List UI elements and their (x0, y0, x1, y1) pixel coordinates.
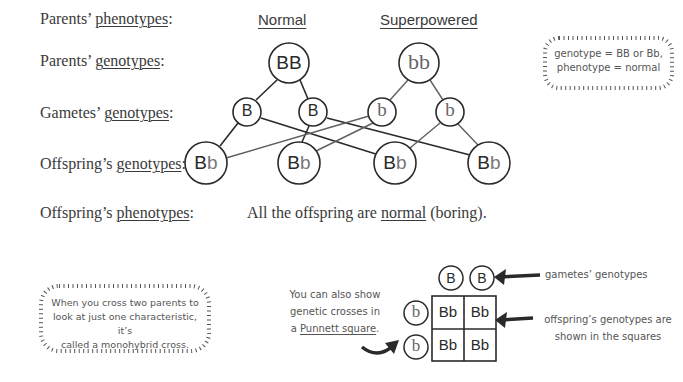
gamete-B-1: B (233, 101, 261, 121)
punnett-cell-1-1: Bb (432, 303, 464, 321)
punnett-top-gamete-1: B (441, 269, 461, 287)
genotype-tip-note: genotype = BB or Bb, phenotype = normal (552, 47, 665, 75)
parent-genotype-bb-dominant: BB (269, 51, 309, 75)
punnett-cell-1-2: Bb (464, 303, 496, 321)
recessive-allele: b (490, 152, 501, 173)
tip-line-1: genotype = BB or Bb, (552, 47, 665, 61)
result-suffix: (boring). (426, 204, 486, 221)
punnett-cell-2-1: Bb (432, 336, 464, 354)
gamete-B-2: B (299, 101, 327, 121)
offspring-genotype-1: Bb (185, 151, 227, 175)
punnett-intro-line-1: You can also show (280, 286, 390, 303)
dominant-allele: B (383, 152, 396, 173)
intro-suffix: . (376, 323, 379, 334)
dominant-allele: B (194, 152, 207, 173)
intro-term: Punnett square (300, 323, 376, 334)
offspring-genotype-3: Bb (374, 151, 416, 175)
monohybrid-note: When you cross two parents to look at ju… (45, 296, 205, 352)
punnett-intro-line-2: genetic crosses in (280, 303, 390, 320)
recessive-allele: b (207, 152, 218, 173)
intro-prefix: a (291, 323, 300, 334)
monohybrid-line-3: called a monohybrid cross. (45, 338, 205, 352)
punnett-intro-note: You can also show genetic crosses in a P… (280, 286, 390, 337)
parent-genotype-bb-recessive: bb (399, 50, 439, 74)
monohybrid-line-2: look at just one characteristic, it’s (45, 310, 205, 338)
punnett-cell-2-2: Bb (464, 336, 496, 354)
result-term: normal (381, 204, 426, 221)
gamete-b-1: b (368, 100, 396, 120)
punnett-side-gamete-2: b (406, 337, 426, 355)
annotation-line-2: shown in the squares (533, 328, 683, 345)
recessive-allele: b (300, 152, 311, 173)
gamete-b-2: b (436, 100, 464, 120)
offspring-genotype-2: Bb (278, 151, 320, 175)
dominant-allele: B (287, 152, 300, 173)
recessive-allele: b (396, 152, 407, 173)
tip-line-2: phenotype = normal (552, 61, 665, 75)
punnett-top-gamete-2: B (472, 269, 492, 287)
result-prefix: All the offspring are (247, 204, 381, 221)
punnett-intro-line-3: a Punnett square. (280, 320, 390, 337)
dominant-allele: B (477, 152, 490, 173)
gametes-annotation: gametes’ genotypes (545, 268, 665, 282)
monohybrid-line-1: When you cross two parents to (45, 296, 205, 310)
punnett-side-gamete-1: b (406, 303, 426, 321)
offspring-genotype-4: Bb (468, 151, 510, 175)
offspring-phenotype-result: All the offspring are normal (boring). (247, 204, 487, 222)
annotation-line-1: offspring’s genotypes are (533, 311, 683, 328)
offspring-annotation: offspring’s genotypes are shown in the s… (533, 311, 683, 345)
